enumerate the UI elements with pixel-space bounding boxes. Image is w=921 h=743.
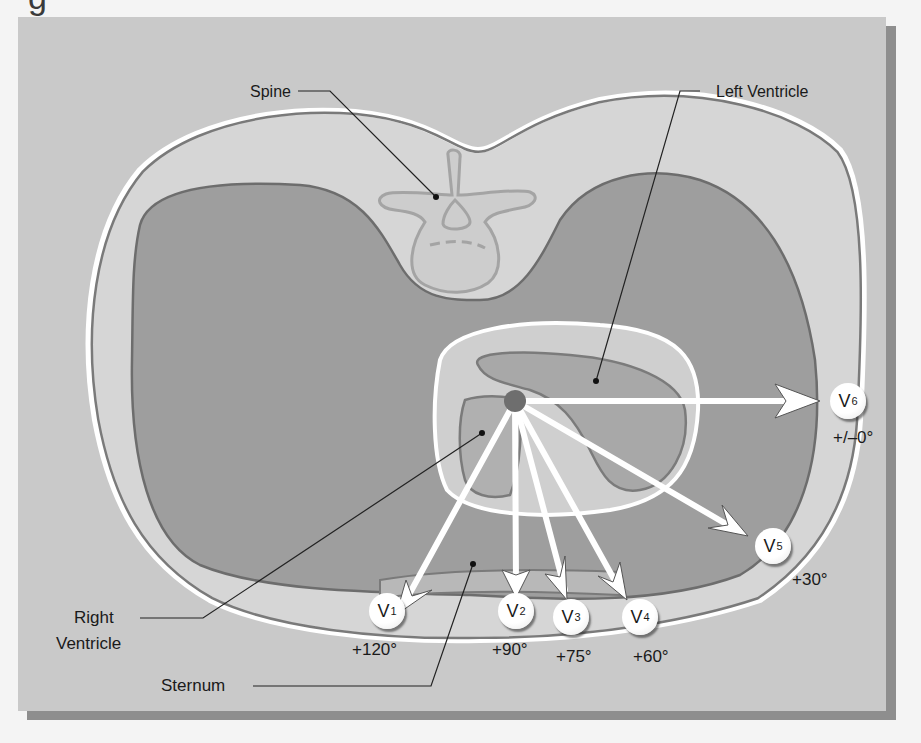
lead-v4-badge: V4 (622, 599, 658, 635)
lead-v6-badge: V6 (830, 383, 866, 419)
label-spine: Spine (250, 82, 291, 101)
lead-v3-badge: V3 (553, 599, 589, 635)
angle-v6: +/–0° (833, 428, 873, 448)
label-left-ventricle: Left Ventricle (716, 82, 809, 101)
lead-v1-badge: V1 (369, 593, 405, 629)
angle-v2: +90° (492, 640, 528, 660)
angle-v4: +60° (633, 647, 669, 667)
label-right-ventricle-1: Right (74, 608, 114, 627)
label-right-ventricle-2: Ventricle (56, 634, 121, 653)
angle-v3: +75° (556, 647, 592, 667)
angle-v1: +120° (352, 640, 397, 660)
label-sternum: Sternum (161, 676, 225, 695)
lead-v5-badge: V5 (755, 528, 791, 564)
chest-cross-section (0, 0, 921, 743)
vector-origin-dot (504, 390, 526, 412)
lead-v2-badge: V2 (498, 593, 534, 629)
angle-v5: +30° (792, 570, 828, 590)
